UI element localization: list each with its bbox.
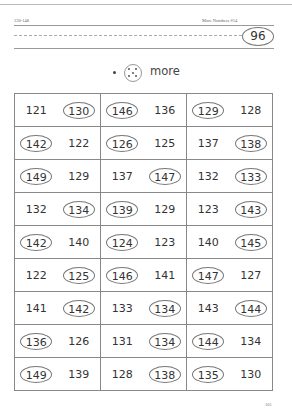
- number[interactable]: 127: [235, 267, 267, 284]
- name-writing-line: [14, 35, 242, 36]
- circled-number[interactable]: 130: [63, 102, 95, 119]
- number[interactable]: 129: [63, 168, 95, 185]
- number[interactable]: 140: [192, 234, 224, 251]
- circled-number[interactable]: 124: [106, 234, 138, 251]
- circled-number[interactable]: 149: [20, 366, 52, 383]
- grid-row: 149139128138135130: [15, 358, 273, 391]
- number-pair-cell: 132133: [187, 160, 273, 193]
- grid-row: 142122126125137138: [15, 127, 273, 160]
- circled-number[interactable]: 125: [63, 267, 95, 284]
- number-pair-cell: 124123: [101, 226, 187, 259]
- circled-number[interactable]: 134: [149, 300, 181, 317]
- circled-number[interactable]: 146: [106, 102, 138, 119]
- number-pair-cell: 131134: [101, 325, 187, 358]
- number[interactable]: 131: [106, 333, 138, 350]
- worksheet-number-badge: 96: [242, 27, 274, 46]
- circled-number[interactable]: 146: [106, 267, 138, 284]
- number[interactable]: 134: [235, 333, 267, 350]
- number[interactable]: 136: [149, 102, 181, 119]
- number-pair-cell: 146136: [101, 94, 187, 127]
- number-pair-cell: 146141: [101, 259, 187, 292]
- number-pair-cell: 143144: [187, 292, 273, 325]
- number[interactable]: 129: [149, 201, 181, 218]
- circled-number[interactable]: 136: [20, 333, 52, 350]
- number[interactable]: 137: [106, 168, 138, 185]
- number[interactable]: 122: [20, 267, 52, 284]
- number-pair-cell: 136126: [15, 325, 101, 358]
- number[interactable]: 133: [106, 300, 138, 317]
- number-pair-cell: 137147: [101, 160, 187, 193]
- number-pair-cell: 133134: [101, 292, 187, 325]
- number-pair-cell: 137138: [187, 127, 273, 160]
- circled-number[interactable]: 135: [192, 366, 224, 383]
- grid-row: 122125146141147127: [15, 259, 273, 292]
- number-pair-cell: 149129: [15, 160, 101, 193]
- number-pair-cell: 135130: [187, 358, 273, 391]
- circled-number[interactable]: 147: [149, 168, 181, 185]
- number-pair-cell: 128138: [101, 358, 187, 391]
- circled-number[interactable]: 143: [235, 201, 267, 218]
- circled-number[interactable]: 133: [235, 168, 267, 185]
- number[interactable]: 132: [192, 168, 224, 185]
- instruction-label: more: [150, 64, 180, 78]
- number-pair-cell: 144134: [187, 325, 273, 358]
- circled-number[interactable]: 144: [192, 333, 224, 350]
- number[interactable]: 132: [20, 201, 52, 218]
- number-pair-cell: 140145: [187, 226, 273, 259]
- grid-row: 142140124123140145: [15, 226, 273, 259]
- circled-number[interactable]: 147: [192, 267, 224, 284]
- worksheet-title: More Numbers #14: [202, 18, 237, 23]
- page-number: 101: [265, 402, 272, 407]
- number-pair-cell: 142122: [15, 127, 101, 160]
- number-range: 120-148: [14, 18, 29, 23]
- grid-row: 149129137147132133: [15, 160, 273, 193]
- number-comparison-grid: 1211301461361291281421221261251371381491…: [14, 93, 273, 391]
- number-pair-cell: 121130: [15, 94, 101, 127]
- top-rule: [0, 4, 292, 5]
- number[interactable]: 141: [149, 267, 181, 284]
- number[interactable]: 128: [106, 366, 138, 383]
- number[interactable]: 143: [192, 300, 224, 317]
- number-pair-cell: 147127: [187, 259, 273, 292]
- circled-number[interactable]: 149: [20, 168, 52, 185]
- circled-number[interactable]: 138: [149, 366, 181, 383]
- number-pair-cell: 129128: [187, 94, 273, 127]
- circled-number[interactable]: 134: [149, 333, 181, 350]
- number-pair-cell: 142140: [15, 226, 101, 259]
- number[interactable]: 125: [149, 135, 181, 152]
- circled-number[interactable]: 145: [235, 234, 267, 251]
- number[interactable]: 122: [63, 135, 95, 152]
- number[interactable]: 137: [192, 135, 224, 152]
- grid-row: 121130146136129128: [15, 94, 273, 127]
- header-rule: [14, 25, 274, 26]
- circled-number[interactable]: 142: [20, 135, 52, 152]
- circled-number[interactable]: 126: [106, 135, 138, 152]
- grid-row: 132134139129123143: [15, 193, 273, 226]
- number[interactable]: 123: [192, 201, 224, 218]
- number[interactable]: 123: [149, 234, 181, 251]
- circled-number[interactable]: 142: [63, 300, 95, 317]
- circled-number[interactable]: 134: [63, 201, 95, 218]
- circled-number[interactable]: 144: [235, 300, 267, 317]
- number[interactable]: 141: [20, 300, 52, 317]
- number-pair-cell: 126125: [101, 127, 187, 160]
- number-pair-cell: 149139: [15, 358, 101, 391]
- circled-number[interactable]: 138: [235, 135, 267, 152]
- number-pair-cell: 139129: [101, 193, 187, 226]
- number[interactable]: 139: [63, 366, 95, 383]
- number-pair-cell: 141142: [15, 292, 101, 325]
- number[interactable]: 140: [63, 234, 95, 251]
- number[interactable]: 128: [235, 102, 267, 119]
- circled-number[interactable]: 129: [192, 102, 224, 119]
- number[interactable]: 121: [20, 102, 52, 119]
- number-pair-cell: 132134: [15, 193, 101, 226]
- number[interactable]: 126: [63, 333, 95, 350]
- number-pair-cell: 122125: [15, 259, 101, 292]
- dice-five-icon: [124, 64, 142, 82]
- circled-number[interactable]: 142: [20, 234, 52, 251]
- bullet-icon: [113, 71, 116, 74]
- number-pair-cell: 123143: [187, 193, 273, 226]
- header-bottom-rule: [14, 48, 274, 49]
- number[interactable]: 130: [235, 366, 267, 383]
- circled-number[interactable]: 139: [106, 201, 138, 218]
